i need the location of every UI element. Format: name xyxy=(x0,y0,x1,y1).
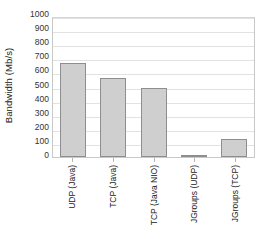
bar-slot xyxy=(133,18,173,157)
bars-container xyxy=(53,18,254,157)
y-axis-title: Bandwidth (Mb/s) xyxy=(0,0,18,170)
bar[interactable] xyxy=(181,155,207,157)
y-axis-tick-label: 400 xyxy=(35,94,49,103)
y-axis-tick-label: 500 xyxy=(35,80,49,89)
x-axis-tick-label: UDP (Java) xyxy=(68,165,77,209)
y-axis-tick-label: 100 xyxy=(35,137,49,146)
y-axis-tick-label: 700 xyxy=(35,52,49,61)
x-axis-tick-label: JGroups (UDP) xyxy=(190,165,199,223)
x-axis-label-slot: UDP (Java) xyxy=(52,162,92,239)
x-axis-label-slot: JGroups (TCP) xyxy=(215,162,255,239)
y-axis-tick-label: 800 xyxy=(35,38,49,47)
bar-slot xyxy=(53,18,93,157)
bar-slot xyxy=(174,18,214,157)
y-axis-tick-label: 900 xyxy=(35,24,49,33)
y-axis-tick-label: 300 xyxy=(35,108,49,117)
bar-chart-figure: Bandwidth (Mb/s) 10009008007006005004003… xyxy=(0,0,268,239)
bar[interactable] xyxy=(60,63,86,157)
x-axis-tick-label: TCP (Java) xyxy=(109,165,118,208)
x-axis-label-slot: TCP (Java) xyxy=(93,162,133,239)
y-axis-title-text: Bandwidth (Mb/s) xyxy=(4,47,15,123)
x-axis-tick-label: TCP (Java NIO) xyxy=(149,165,158,225)
bar[interactable] xyxy=(100,78,126,157)
x-axis-tick-label: JGroups (TCP) xyxy=(230,165,239,222)
y-axis-tick-label: 200 xyxy=(35,123,49,132)
x-axis-label-slot: TCP (Java NIO) xyxy=(134,162,174,239)
y-axis-tick-label: 600 xyxy=(35,66,49,75)
y-axis-tick-label: 1000 xyxy=(30,10,49,19)
bar[interactable] xyxy=(221,139,247,157)
bar-slot xyxy=(214,18,254,157)
plot-area xyxy=(52,17,255,158)
x-axis-label-slot: JGroups (UDP) xyxy=(174,162,214,239)
bar-slot xyxy=(93,18,133,157)
y-axis-tick-labels: 10009008007006005004003002001000 xyxy=(18,14,52,160)
x-axis-tick-labels: UDP (Java)TCP (Java)TCP (Java NIO)JGroup… xyxy=(52,162,255,239)
bar[interactable] xyxy=(141,88,167,157)
y-axis-tick-label: 0 xyxy=(44,151,49,160)
